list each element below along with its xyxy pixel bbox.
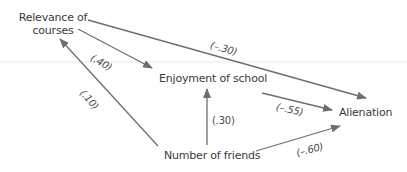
- node-relevance-of-courses: Relevance of courses: [18, 11, 88, 37]
- node-alienation: Alienation: [339, 106, 392, 119]
- node-number-of-friends: Number of friends: [164, 149, 260, 162]
- edge-relevance-alienation: [88, 20, 366, 98]
- path-diagram: Relevance of courses Enjoyment of school…: [0, 0, 407, 172]
- coef-friends-enjoyment: (.30): [212, 115, 235, 126]
- edge-friends-relevance: [60, 39, 158, 146]
- node-relevance-line2: courses: [18, 24, 88, 37]
- node-enjoyment-of-school: Enjoyment of school: [159, 72, 267, 85]
- node-relevance-line1: Relevance of: [18, 11, 88, 24]
